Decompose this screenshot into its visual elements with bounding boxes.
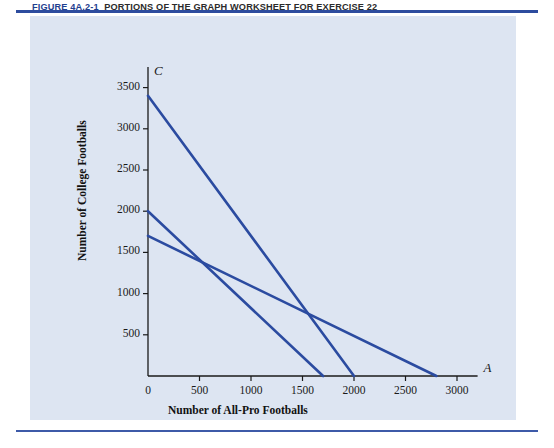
x-tick-label: 1500	[278, 384, 328, 396]
y-tick-label: 500	[100, 327, 140, 339]
y-tick-label: 2500	[100, 162, 140, 174]
plot-series	[148, 96, 436, 376]
y-tick-label: 1500	[100, 244, 140, 256]
caption-divider-rule	[16, 10, 538, 13]
plot-ticks	[143, 88, 457, 381]
y-axis-letter: C	[154, 63, 163, 79]
x-tick-label: 500	[175, 384, 225, 396]
y-tick-label: 2000	[100, 203, 140, 215]
x-tick-label: 2000	[329, 384, 379, 396]
footer-divider-rule	[16, 430, 538, 432]
constraint-line	[148, 211, 323, 376]
x-tick-label: 3000	[432, 384, 482, 396]
y-tick-label: 3000	[100, 121, 140, 133]
x-tick-label: 0	[123, 384, 173, 396]
figure-panel: 5001000150020002500300035000500100015002…	[30, 16, 516, 420]
constraint-line	[148, 96, 354, 376]
x-axis-letter: A	[484, 360, 492, 376]
y-tick-label: 3500	[100, 80, 140, 92]
x-tick-label: 2500	[381, 384, 431, 396]
constraint-line	[148, 236, 436, 376]
graph-plot	[30, 16, 516, 420]
y-axis-title: Number of College Footballs	[76, 120, 88, 261]
x-axis-title: Number of All-Pro Footballs	[168, 404, 308, 416]
y-tick-label: 1000	[100, 286, 140, 298]
x-tick-label: 1000	[226, 384, 276, 396]
plot-axes	[148, 67, 478, 376]
